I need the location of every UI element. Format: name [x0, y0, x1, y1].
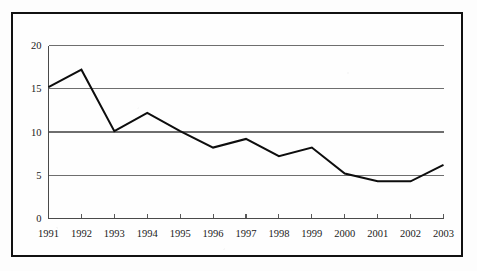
data-series-group	[49, 70, 444, 182]
y-tick-label-5: 5	[36, 170, 41, 181]
data-line-series	[49, 70, 444, 182]
x-tick-label-1993: 1993	[104, 228, 125, 239]
line-chart: 05101520 1991199219931994199519961997199…	[0, 0, 477, 271]
x-tick-label-1991: 1991	[38, 228, 59, 239]
x-tick-label-1997: 1997	[236, 228, 257, 239]
gridline-group	[49, 46, 444, 176]
x-tick-label-2002: 2002	[400, 228, 421, 239]
x-axis-tick-labels: 1991199219931994199519961997199819992000…	[38, 228, 454, 239]
x-tick-label-1998: 1998	[268, 228, 289, 239]
y-tick-label-10: 10	[31, 127, 42, 138]
x-tick-label-2001: 2001	[367, 228, 388, 239]
y-tick-label-0: 0	[36, 213, 41, 224]
y-tick-label-15: 15	[31, 83, 42, 94]
y-tick-label-20: 20	[31, 40, 42, 51]
x-tick-label-1994: 1994	[137, 228, 159, 239]
x-tick-label-1995: 1995	[170, 228, 191, 239]
figure-root: 05101520 1991199219931994199519961997199…	[0, 0, 477, 271]
x-tick-label-1992: 1992	[71, 228, 92, 239]
x-tick-label-2000: 2000	[334, 228, 355, 239]
x-tick-label-2003: 2003	[433, 228, 454, 239]
tick-mark-group	[49, 214, 444, 219]
x-tick-label-1999: 1999	[301, 228, 322, 239]
y-axis-tick-labels: 05101520	[31, 40, 42, 224]
chart-canvas: 05101520 1991199219931994199519961997199…	[0, 0, 477, 271]
x-tick-label-1996: 1996	[203, 228, 224, 239]
